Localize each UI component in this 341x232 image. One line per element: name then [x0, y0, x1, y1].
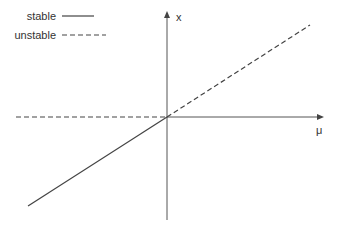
legend-label-unstable: unstable — [14, 29, 56, 41]
legend-label-stable: stable — [27, 10, 56, 22]
branch-stable-diagonal — [28, 117, 167, 206]
branch-unstable-diagonal — [167, 25, 310, 117]
legend: stable unstable — [14, 10, 106, 41]
axis-label-x: x — [176, 11, 182, 23]
axis-label-mu: μ — [316, 124, 322, 136]
bifurcation-diagram: stable unstable x μ — [0, 0, 341, 232]
